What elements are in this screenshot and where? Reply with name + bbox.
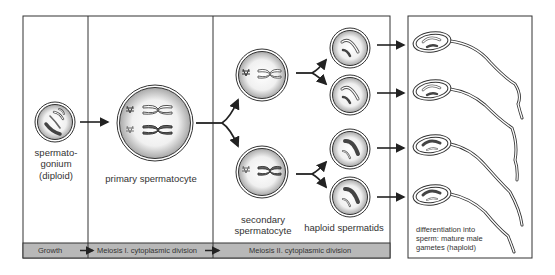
branch-arrow-meiosis-2-top — [296, 60, 326, 84]
label-line: secondary — [225, 214, 301, 225]
phase-label: Meiosis I. cytoplasmic division — [97, 246, 197, 255]
branch-arrow-meiosis-2-bottom — [296, 162, 326, 187]
sperm-3 — [412, 132, 522, 225]
spermatid-4 — [330, 177, 370, 217]
spermatogonium-cell — [35, 102, 75, 142]
label-line: gametes (haploid) — [416, 243, 526, 252]
label-text: haploid spermatids — [304, 222, 384, 233]
primary-spermatocyte-cell — [117, 85, 193, 161]
label-line: spermatocyte — [225, 225, 301, 236]
label-line: gonium — [26, 158, 86, 169]
secondary-spermatocyte-cell-2 — [236, 146, 288, 198]
label-primary-spermatocyte: primary spermatocyte — [90, 173, 212, 184]
phase-growth: Growth — [38, 246, 62, 255]
branch-arrow-meiosis-1 — [196, 100, 238, 146]
secondary-spermatocyte-cell-1 — [236, 49, 288, 101]
phase-label: Growth — [38, 246, 62, 255]
label-line: sperm: mature male — [416, 234, 526, 243]
spermatogenesis-diagram: spermato- gonium (diploid) primary sperm… — [0, 0, 555, 275]
sperm-1 — [412, 29, 522, 118]
label-sperm: differentiation into sperm: mature male … — [416, 225, 526, 252]
spermatid-3 — [330, 129, 370, 169]
spermatid-1 — [330, 28, 370, 68]
label-line: (diploid) — [26, 170, 86, 181]
label-spermatogonium: spermato- gonium (diploid) — [26, 147, 86, 181]
sperm-2 — [412, 77, 517, 180]
label-text: primary spermatocyte — [105, 173, 196, 184]
label-secondary-spermatocyte: secondary spermatocyte — [225, 214, 301, 237]
label-line: differentiation into — [416, 225, 526, 234]
label-haploid-spermatids: haploid spermatids — [298, 222, 390, 233]
phase-meiosis-2: Meiosis II. cytoplasmic division — [249, 246, 351, 255]
phase-meiosis-1: Meiosis I. cytoplasmic division — [97, 246, 197, 255]
spermatid-2 — [330, 75, 370, 115]
phase-label: Meiosis II. cytoplasmic division — [249, 246, 351, 255]
label-line: spermato- — [26, 147, 86, 158]
